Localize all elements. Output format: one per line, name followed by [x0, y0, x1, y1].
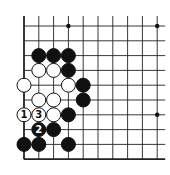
white-stone-move-1: 1 — [17, 108, 31, 122]
white-stone-move-3: 3 — [32, 108, 46, 122]
white-stone — [47, 93, 61, 107]
white-stone — [17, 78, 31, 92]
black-stone — [47, 123, 61, 137]
black-stone — [32, 137, 46, 151]
black-stone — [76, 78, 90, 92]
white-stone — [47, 63, 61, 77]
star-point-icon — [155, 24, 159, 28]
white-stone — [32, 93, 46, 107]
white-stone — [32, 63, 46, 77]
star-point-icon — [66, 24, 70, 28]
move-number-label: 1 — [21, 109, 28, 120]
black-stone — [17, 137, 31, 151]
black-stone — [76, 93, 90, 107]
star-point-icon — [155, 113, 159, 117]
move-number-label: 3 — [35, 109, 42, 120]
go-board-diagram: 132 — [0, 0, 170, 175]
white-stone — [61, 78, 75, 92]
black-stone — [61, 137, 75, 151]
white-stone — [47, 108, 61, 122]
black-stone-move-2: 2 — [32, 123, 46, 137]
black-stone — [61, 108, 75, 122]
black-stone — [47, 49, 61, 63]
move-number-label: 2 — [35, 124, 42, 135]
black-stone — [32, 49, 46, 63]
black-stone — [61, 49, 75, 63]
black-stone — [61, 63, 75, 77]
board-grid — [24, 16, 165, 159]
